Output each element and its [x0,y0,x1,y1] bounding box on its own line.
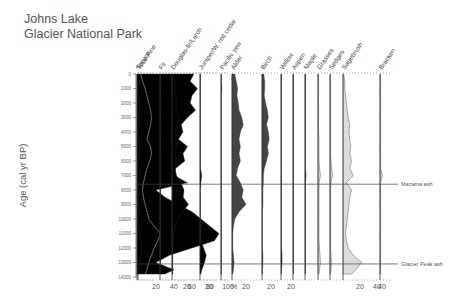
x-tick-label: 20 [287,283,295,290]
y-tick-label: 0 [128,72,131,77]
x-tick-label: 20 [267,283,275,290]
y-tick-label: 6000 [121,159,132,164]
y-tick-label: 5000 [121,144,132,149]
y-tick-label: 13000 [118,260,131,265]
annotation-arrow [50,222,58,238]
annotation-arrow [96,122,104,130]
y-tick-label: 12000 [118,246,131,251]
y-tick-label: 11000 [119,231,132,236]
pollen-diagram: 0100020003000400050006000700080009000100… [0,0,454,302]
taxon-label: Birch [259,54,273,70]
y-tick-label: 10000 [118,217,131,222]
x-tick-label: 20 [242,283,250,290]
x-tick-label: 20 [356,283,364,290]
area-total-pine [138,74,219,274]
y-tick-label: 3000 [121,115,132,120]
x-tick-label: 40 [170,283,178,290]
y-tick-label: 9000 [121,202,132,207]
y-axis-label: Age (cal yr BP) [17,144,28,208]
area-sagebrush [343,74,362,274]
taxon-label: Sagebrush [340,40,365,71]
y-tick-label: 7000 [121,173,132,178]
taxon-label: Bracken [377,47,397,71]
annotation-contorta: P.contorta type [56,101,96,107]
area-birch [262,74,269,274]
x-tick-label: 20 [183,283,191,290]
x-tick-label: 40 [378,283,386,290]
x-tick-label: 20 [205,283,213,290]
annotation-pinus-undiff: Pinus undiff. [98,132,131,138]
y-tick-label: 1000 [121,86,132,91]
y-tick-label: 14000 [118,275,131,280]
area-alder [232,74,246,274]
y-tick-label: 8000 [121,188,132,193]
ash-layer-label: Mazama ash [401,181,433,187]
taxon-label: Fir [157,60,168,71]
annotation-arrow [60,88,65,100]
ash-layer-label: Glacier Peak ash [401,261,443,267]
x-tick-label: 20 [152,283,160,290]
y-tick-label: 2000 [121,101,132,106]
percent-unit: % [231,283,237,290]
taxon-label: Spruce [134,49,153,71]
annotation-monticola: P.monticola type [60,237,104,243]
